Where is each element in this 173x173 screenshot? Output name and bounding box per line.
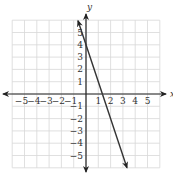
- axes: [3, 14, 166, 172]
- x-tick-label: 3: [120, 96, 126, 106]
- x-tick-label: 2: [108, 96, 114, 106]
- y-tick-label: −5: [70, 151, 84, 161]
- x-tick-label: −2: [52, 96, 65, 106]
- x-tick-label: 4: [132, 96, 138, 106]
- y-axis-label: y: [86, 2, 93, 12]
- y-tick-label: 3: [77, 52, 83, 62]
- y-tick-label: 4: [77, 40, 83, 50]
- y-tick-label: −2: [70, 114, 83, 124]
- y-tick-label: 2: [77, 64, 83, 74]
- coordinate-plane: −5−4−3−2−112345−5−4−3−2−112345 x y: [0, 0, 173, 173]
- y-tick-label: −4: [70, 138, 84, 148]
- x-tick-label: 5: [145, 96, 151, 106]
- y-tick-label: −1: [70, 101, 83, 111]
- x-axis-label: x: [170, 89, 173, 99]
- y-tick-label: −3: [70, 126, 84, 136]
- y-tick-label: 1: [77, 77, 83, 87]
- x-tick-label: 1: [95, 96, 101, 106]
